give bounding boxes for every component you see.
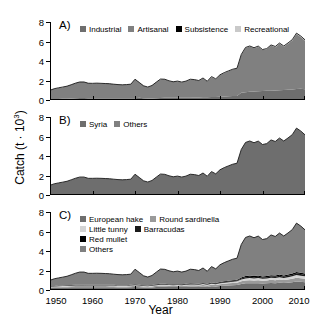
y-axis-title-close: ) bbox=[13, 110, 27, 114]
legend-swatch-icon bbox=[128, 26, 134, 32]
x-tick-1970 bbox=[135, 96, 136, 100]
y-tick-label-6: 6 bbox=[39, 232, 44, 233]
legend-swatch-icon bbox=[150, 216, 156, 222]
x-tick-1960 bbox=[93, 96, 94, 100]
y-tick-8 bbox=[46, 117, 50, 118]
x-tick-1980 bbox=[178, 191, 179, 195]
y-tick-0 bbox=[46, 195, 50, 196]
legend-item-syria[interactable]: Syria bbox=[80, 120, 107, 130]
legend-row: Little tunnyBarracudas bbox=[80, 225, 226, 235]
legend-item-european-hake[interactable]: European hake bbox=[80, 215, 143, 225]
x-tick-2000 bbox=[263, 191, 264, 195]
y-tick-6 bbox=[46, 232, 50, 233]
y-tick-8 bbox=[46, 22, 50, 23]
legend-row: IndustrialArtisanalSubsistenceRecreation… bbox=[80, 25, 296, 35]
y-tick-4 bbox=[46, 156, 50, 157]
legend-swatch-icon bbox=[176, 26, 182, 32]
y-axis-title-exponent: 3 bbox=[12, 114, 21, 118]
legend-swatch-icon bbox=[80, 26, 86, 32]
x-tick-2010 bbox=[304, 191, 305, 195]
legend-label: Red mullet bbox=[89, 235, 127, 245]
panel-c-label: C) bbox=[59, 209, 71, 221]
legend-swatch-icon bbox=[80, 236, 86, 242]
y-tick-6 bbox=[46, 42, 50, 43]
panel-c-legend: European hakeRound sardinellaLittle tunn… bbox=[80, 215, 226, 255]
legend-label: Artisanal bbox=[137, 25, 168, 35]
legend-item-industrial[interactable]: Industrial bbox=[80, 25, 121, 35]
x-tick-1990 bbox=[220, 191, 221, 195]
figure-stacked-area-catch-panels: Catch (t · 103) 86420 A) IndustrialArtis… bbox=[0, 0, 321, 327]
y-tick-label-2: 2 bbox=[39, 271, 44, 272]
y-tick-label-6: 6 bbox=[39, 137, 44, 138]
panel-b-y-axis-line bbox=[50, 117, 51, 195]
legend-swatch-icon bbox=[135, 226, 141, 232]
legend-label: Others bbox=[123, 120, 147, 130]
y-tick-6 bbox=[46, 137, 50, 138]
panel-c-y-axis-line bbox=[50, 212, 51, 290]
legend-item-red-mullet[interactable]: Red mullet bbox=[80, 235, 127, 245]
y-tick-label-4: 4 bbox=[39, 251, 44, 252]
x-tick-2000 bbox=[263, 96, 264, 100]
y-tick-8 bbox=[46, 212, 50, 213]
x-tick-1990 bbox=[220, 286, 221, 290]
x-tick-1990 bbox=[220, 96, 221, 100]
legend-label: Recreational bbox=[244, 25, 289, 35]
panel-b-legend: SyriaOthers bbox=[80, 120, 154, 130]
legend-item-barracudas[interactable]: Barracudas bbox=[135, 225, 185, 235]
panel-a: 86420 A) IndustrialArtisanalSubsistenceR… bbox=[50, 22, 305, 100]
y-tick-label-0: 0 bbox=[39, 195, 44, 196]
area-layer-syria bbox=[50, 128, 305, 195]
y-tick-2 bbox=[46, 176, 50, 177]
x-tick-2010 bbox=[304, 96, 305, 100]
legend-label: Syria bbox=[89, 120, 107, 130]
y-tick-label-8: 8 bbox=[39, 22, 44, 23]
legend-item-others[interactable]: Others bbox=[80, 245, 113, 255]
legend-row: SyriaOthers bbox=[80, 120, 154, 130]
y-tick-label-2: 2 bbox=[39, 176, 44, 177]
legend-item-others[interactable]: Others bbox=[114, 120, 147, 130]
panel-a-y-axis-line bbox=[50, 22, 51, 100]
legend-item-round-sardinella[interactable]: Round sardinella bbox=[150, 215, 219, 225]
x-tick-1970 bbox=[135, 286, 136, 290]
legend-swatch-icon bbox=[80, 246, 86, 252]
legend-row: Others bbox=[80, 245, 226, 255]
legend-item-subsistence[interactable]: Subsistence bbox=[176, 25, 229, 35]
panel-b: 86420 B) SyriaOthers bbox=[50, 117, 305, 195]
legend-row: European hakeRound sardinella bbox=[80, 215, 226, 225]
y-tick-4 bbox=[46, 251, 50, 252]
y-tick-label-4: 4 bbox=[39, 61, 44, 62]
y-tick-label-6: 6 bbox=[39, 42, 44, 43]
x-tick-1980 bbox=[178, 286, 179, 290]
legend-swatch-icon bbox=[80, 121, 86, 127]
legend-swatch-icon bbox=[80, 226, 86, 232]
y-tick-2 bbox=[46, 81, 50, 82]
legend-swatch-icon bbox=[235, 26, 241, 32]
legend-label: Little tunny bbox=[89, 225, 128, 235]
y-tick-label-0: 0 bbox=[39, 100, 44, 101]
legend-item-artisanal[interactable]: Artisanal bbox=[128, 25, 168, 35]
x-tick-1980 bbox=[178, 96, 179, 100]
panel-c: 86420 C) European hakeRound sardinellaLi… bbox=[50, 212, 305, 290]
legend-swatch-icon bbox=[80, 216, 86, 222]
x-tick-1950 bbox=[50, 286, 51, 290]
panel-a-label: A) bbox=[59, 19, 71, 31]
legend-label: Subsistence bbox=[185, 25, 229, 35]
y-tick-label-2: 2 bbox=[39, 81, 44, 82]
x-axis-title: Year bbox=[0, 303, 321, 317]
y-tick-label-0: 0 bbox=[39, 290, 44, 291]
x-tick-1950 bbox=[50, 191, 51, 195]
y-tick-2 bbox=[46, 271, 50, 272]
x-axis-tick-labels: 1950196019701980199020002010 bbox=[50, 291, 305, 303]
legend-item-little-tunny[interactable]: Little tunny bbox=[80, 225, 128, 235]
x-tick-1970 bbox=[135, 191, 136, 195]
y-tick-4 bbox=[46, 61, 50, 62]
y-tick-label-4: 4 bbox=[39, 156, 44, 157]
legend-row: Red mullet bbox=[80, 235, 226, 245]
legend-label: Barracudas bbox=[144, 225, 185, 235]
legend-item-recreational[interactable]: Recreational bbox=[235, 25, 289, 35]
legend-label: Industrial bbox=[89, 25, 121, 35]
legend-label: Round sardinella bbox=[159, 215, 219, 225]
y-tick-0 bbox=[46, 100, 50, 101]
x-tick-1960 bbox=[93, 286, 94, 290]
area-layer-artisanal bbox=[50, 34, 305, 99]
